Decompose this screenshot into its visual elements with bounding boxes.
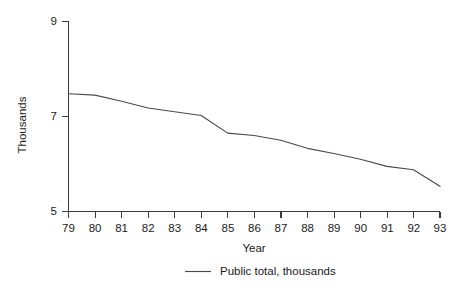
chart-figure: 9 7 5 Thousands 79 80 81 8 [0, 0, 460, 290]
y-tick-label-5: 5 [51, 205, 57, 217]
x-tick-label-89: 89 [328, 222, 341, 234]
x-tick-label-83: 83 [168, 222, 181, 234]
x-tick-label-92: 92 [407, 222, 420, 234]
x-tick-label-81: 81 [115, 222, 128, 234]
x-tick-label-79: 79 [62, 222, 75, 234]
line-chart-canvas: 9 7 5 Thousands 79 80 81 8 [0, 0, 460, 290]
x-tick-label-91: 91 [381, 222, 394, 234]
x-tick-label-87: 87 [275, 222, 288, 234]
y-axis-title: Thousands [16, 96, 28, 153]
x-tick-label-88: 88 [301, 222, 314, 234]
legend-label-public-total: Public total, thousands [220, 265, 336, 277]
x-tick-label-93: 93 [434, 222, 447, 234]
x-axis-tick-labels: 79 80 81 82 83 84 85 86 87 88 89 90 91 9… [62, 222, 446, 234]
x-tick-label-86: 86 [248, 222, 261, 234]
y-tick-label-9: 9 [51, 15, 57, 27]
x-tick-label-90: 90 [354, 222, 367, 234]
y-tick-label-7: 7 [51, 110, 57, 122]
x-tick-label-80: 80 [89, 222, 102, 234]
x-tick-label-82: 82 [142, 222, 155, 234]
x-axis-title: Year [242, 242, 265, 254]
x-tick-label-85: 85 [222, 222, 235, 234]
x-tick-label-84: 84 [195, 222, 208, 234]
